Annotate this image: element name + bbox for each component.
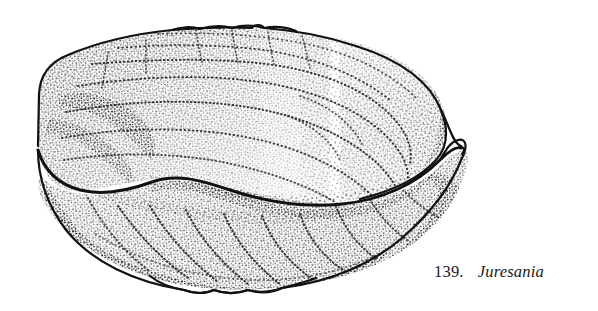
figure-caption: 139.Juresania [434, 262, 544, 282]
illustration-plate: 139.Juresania [0, 0, 598, 311]
genus-name: Juresania [478, 262, 544, 281]
figure-number: 139. [434, 262, 464, 281]
